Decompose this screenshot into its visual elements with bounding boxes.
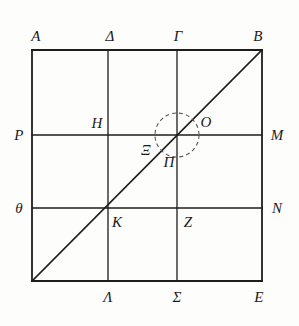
vertex-label-M: M <box>271 128 284 143</box>
vertex-label-N: N <box>272 201 282 216</box>
diagonal-line <box>32 50 262 281</box>
vertex-label-Z: Z <box>184 215 193 230</box>
vertex-label-P: P <box>14 128 23 143</box>
vertex-label-K: K <box>112 215 122 230</box>
vertex-label-Pi: Π <box>163 155 174 170</box>
diagram-canvas <box>0 0 299 326</box>
vertex-label-Xi: Ξ <box>141 143 151 158</box>
vertex-label-Gamma: Γ <box>174 29 183 44</box>
geometry-figure: AΔΓBPHΞOMΠθKZNΛΣE <box>0 0 299 326</box>
vertex-label-H: H <box>91 116 102 131</box>
vertex-label-Sigma: Σ <box>172 290 181 305</box>
vertex-label-A: A <box>31 29 40 44</box>
vertex-label-O: O <box>200 115 211 130</box>
vertex-label-B: B <box>253 29 262 44</box>
vertex-label-Delta: Δ <box>105 29 114 44</box>
vertex-label-theta: θ <box>15 201 23 216</box>
vertex-label-E: E <box>254 290 263 305</box>
vertex-label-Lambda: Λ <box>103 290 112 305</box>
